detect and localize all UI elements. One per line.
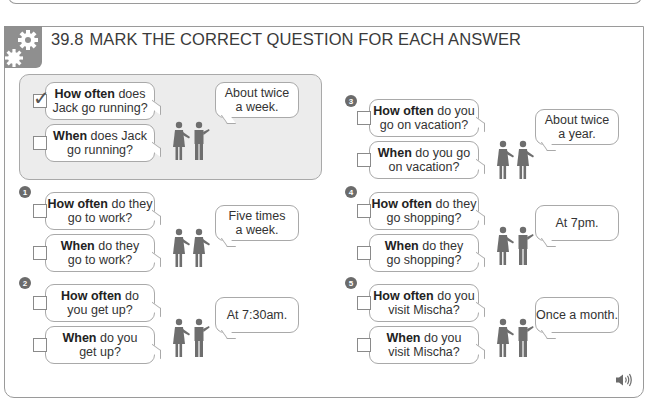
checkmark-icon: ✓ [33, 88, 50, 108]
question-line-2: on vacation? [389, 160, 460, 174]
item-number-badge: 3 [345, 95, 357, 107]
answer-bubble: About twice a year. [535, 109, 619, 145]
question-bubble[interactable]: How often do you visit Mischa? [369, 284, 479, 322]
person-figure [519, 227, 534, 265]
answer-checkbox[interactable] [357, 204, 371, 218]
person-figure [195, 122, 210, 160]
exercise-number: 39.8 [51, 30, 84, 48]
exercise-title: 39.8MARK THE CORRECT QUESTION FOR EACH A… [51, 30, 521, 49]
answer-line-1: Once a month. [536, 308, 618, 322]
question-line-1: How often do you [373, 104, 474, 118]
question-line-2: go to work? [68, 211, 133, 225]
example-item: ✓ How often does Jack go running? When d… [19, 74, 329, 174]
question-line-1: When does Jack [53, 129, 147, 143]
answer-bubble: At 7:30am. [215, 297, 299, 333]
answer-checkbox[interactable] [357, 111, 371, 125]
question-line-1: How often does [54, 87, 145, 101]
previous-exercise-frame [8, 0, 642, 4]
person-figure [497, 141, 514, 179]
answer-checkbox[interactable] [357, 153, 371, 167]
person-figure [195, 319, 210, 357]
question-line-1: How often do they [372, 197, 477, 211]
answer-line-2: a week. [235, 100, 278, 114]
answer-checkbox[interactable] [33, 296, 47, 310]
question-bubble[interactable]: When does Jack go running? [45, 124, 155, 162]
question-bubble[interactable]: When do you go on vacation? [369, 141, 479, 179]
person-figure [173, 122, 190, 160]
question-bubble[interactable]: How often do they go to work? [45, 192, 155, 230]
people-illustration [169, 317, 219, 367]
answer-line-1: About twice [225, 86, 290, 100]
answer-bubble: At 7pm. [535, 205, 619, 241]
person-figure [173, 319, 190, 357]
question-bubble[interactable]: When do you get up? [45, 326, 155, 364]
answer-checkbox[interactable] [33, 136, 47, 150]
question-line-1: When do you [386, 331, 461, 345]
exercise-panel: 39.8MARK THE CORRECT QUESTION FOR EACH A… [4, 26, 644, 398]
question-bubble[interactable]: How often does Jack go running? [45, 82, 155, 120]
question-line-2: visit Mischa? [388, 303, 460, 317]
person-figure [497, 319, 514, 357]
answer-checkbox[interactable] [33, 246, 47, 260]
answer-line-2: a week. [235, 223, 278, 237]
item-number-badge: 1 [19, 186, 31, 198]
people-illustration [169, 120, 219, 170]
question-line-1: When do they [385, 239, 464, 253]
item-number-badge: 2 [19, 277, 31, 289]
question-bubble[interactable]: How often do you get up? [45, 284, 155, 322]
answer-bubble: Once a month. [535, 297, 619, 333]
exercise-heading: MARK THE CORRECT QUESTION FOR EACH ANSWE… [90, 30, 522, 48]
question-bubble[interactable]: When do you visit Mischa? [369, 326, 479, 364]
person-figure [519, 319, 534, 357]
answer-checkbox[interactable] [357, 338, 371, 352]
answer-bubble: About twice a week. [215, 82, 299, 118]
question-bubble[interactable]: How often do they go shopping? [369, 192, 479, 230]
answer-line-1: At 7:30am. [227, 308, 287, 322]
question-bubble[interactable]: When do they go to work? [45, 234, 155, 272]
item-2: 2 How often do you get up? When do you g… [19, 271, 329, 371]
gears-icon [4, 26, 42, 68]
question-bubble[interactable]: When do they go shopping? [369, 234, 479, 272]
answer-line-2: a year. [558, 127, 596, 141]
answer-checkbox[interactable] [33, 204, 47, 218]
answer-bubble: Five times a week. [215, 205, 299, 241]
question-line-1: How often do they [48, 197, 153, 211]
question-line-2: visit Mischa? [388, 345, 460, 359]
person-figure [517, 141, 534, 179]
person-figure [173, 229, 190, 267]
answer-line-1: Five times [229, 209, 286, 223]
question-line-2: go on vacation? [380, 118, 468, 132]
question-line-2: you get up? [67, 303, 132, 317]
answer-line-1: At 7pm. [555, 216, 598, 230]
question-line-2: go shopping? [386, 211, 461, 225]
question-line-2: get up? [79, 345, 121, 359]
question-line-1: When do they [61, 239, 140, 253]
person-figure [193, 229, 210, 267]
question-line-2: Jack go running? [52, 101, 147, 115]
question-line-2: go to work? [68, 253, 133, 267]
question-line-1: When do you [62, 331, 137, 345]
question-line-1: How often do [61, 289, 139, 303]
item-number-badge: 5 [345, 277, 357, 289]
answer-line-1: About twice [545, 113, 610, 127]
item-5: 5 How often do you visit Mischa? When do… [345, 271, 647, 371]
answer-checkbox[interactable] [357, 296, 371, 310]
question-bubble[interactable]: How often do you go on vacation? [369, 99, 479, 137]
audio-speaker-icon[interactable] [615, 373, 633, 387]
answer-checkbox[interactable]: ✓ [33, 94, 47, 108]
item-4: 4 How often do they go shopping? When do… [345, 179, 647, 279]
person-figure [497, 227, 514, 265]
question-line-1: When do you go [378, 146, 470, 160]
question-line-1: How often do you [373, 289, 474, 303]
item-1: 1 How often do they go to work? When do … [19, 179, 329, 279]
item-number-badge: 4 [345, 186, 357, 198]
people-illustration [169, 227, 219, 277]
answer-checkbox[interactable] [357, 246, 371, 260]
question-line-2: go running? [67, 143, 133, 157]
question-line-2: go shopping? [386, 253, 461, 267]
answer-checkbox[interactable] [33, 338, 47, 352]
